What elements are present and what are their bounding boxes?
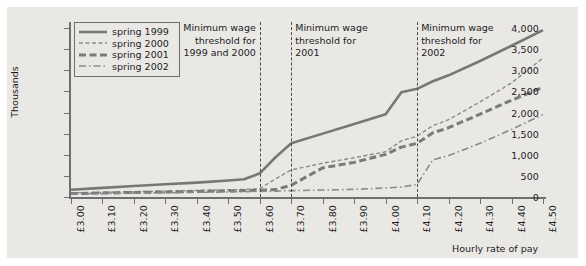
series-line bbox=[71, 87, 543, 193]
threshold-line bbox=[260, 22, 261, 197]
legend-item: spring 2000 bbox=[79, 38, 174, 50]
legend-line-swatch bbox=[79, 50, 107, 60]
x-tick bbox=[480, 198, 481, 204]
threshold-annotation: Minimum wage threshold for 2001 bbox=[295, 22, 391, 60]
legend-label: spring 2000 bbox=[112, 38, 169, 49]
y-tick-label: 2,500 bbox=[511, 86, 539, 97]
x-tick bbox=[228, 198, 229, 204]
x-tick-label: £3.30 bbox=[169, 205, 180, 233]
x-tick-label: £4.00 bbox=[390, 205, 401, 233]
x-tick-label: £3.40 bbox=[201, 205, 212, 233]
y-tick-label: 1,500 bbox=[511, 128, 539, 139]
legend-line-swatch bbox=[79, 27, 107, 37]
x-tick bbox=[354, 198, 355, 204]
x-tick bbox=[417, 198, 418, 204]
x-tick-label: £3.90 bbox=[358, 205, 369, 233]
series-line bbox=[71, 115, 543, 194]
x-tick-label: £4.40 bbox=[516, 205, 527, 233]
x-tick bbox=[512, 198, 513, 204]
x-tick-label: £3.60 bbox=[264, 205, 275, 233]
x-tick-label: £4.30 bbox=[484, 205, 495, 233]
y-tick bbox=[64, 155, 70, 156]
legend-label: spring 2002 bbox=[112, 61, 169, 72]
threshold-annotation: Minimum wage threshold for 2002 bbox=[421, 22, 517, 60]
x-tick bbox=[134, 198, 135, 204]
x-tick bbox=[197, 198, 198, 204]
legend-label: spring 1999 bbox=[112, 26, 169, 37]
y-tick bbox=[64, 70, 70, 71]
x-tick-label: £3.20 bbox=[138, 205, 149, 233]
x-tick-label: £3.80 bbox=[327, 205, 338, 233]
x-tick-label: £4.10 bbox=[421, 205, 432, 233]
legend-line-swatch bbox=[79, 38, 107, 48]
x-tick bbox=[291, 198, 292, 204]
legend-label: spring 2001 bbox=[112, 49, 169, 60]
x-tick bbox=[543, 198, 544, 204]
y-tick-label: 0 bbox=[533, 192, 539, 203]
y-tick bbox=[64, 176, 70, 177]
x-tick bbox=[165, 198, 166, 204]
legend-line-swatch bbox=[79, 61, 107, 71]
x-tick-label: £4.20 bbox=[453, 205, 464, 233]
y-tick-label: 500 bbox=[521, 170, 539, 181]
x-tick-label: £3.00 bbox=[75, 205, 86, 233]
threshold-line bbox=[417, 22, 418, 197]
legend-item: spring 1999 bbox=[79, 26, 174, 38]
x-tick-label: £3.70 bbox=[295, 205, 306, 233]
page-margin-bottom bbox=[0, 258, 586, 266]
x-tick bbox=[449, 198, 450, 204]
series-line bbox=[71, 58, 543, 193]
y-tick bbox=[64, 49, 70, 50]
legend-item: spring 2001 bbox=[79, 49, 174, 61]
y-tick bbox=[64, 197, 70, 198]
page-margin-top bbox=[0, 0, 586, 7]
threshold-line bbox=[291, 22, 292, 197]
x-tick-label: £3.10 bbox=[106, 205, 117, 233]
x-axis-line bbox=[69, 197, 546, 199]
page-margin-right bbox=[578, 0, 586, 266]
x-tick bbox=[71, 198, 72, 204]
x-tick-label: £4.50 bbox=[547, 205, 558, 233]
x-tick bbox=[260, 198, 261, 204]
x-axis-title: Hourly rate of pay bbox=[452, 243, 538, 254]
y-tick bbox=[64, 134, 70, 135]
y-tick-label: 3,000 bbox=[511, 65, 539, 76]
y-tick bbox=[64, 113, 70, 114]
y-tick-label: 2,000 bbox=[511, 107, 539, 118]
chart-figure: Thousands Hourly rate of pay 05001,0001,… bbox=[0, 0, 586, 266]
y-tick bbox=[64, 28, 70, 29]
x-tick-label: £3.50 bbox=[232, 205, 243, 233]
x-tick bbox=[102, 198, 103, 204]
x-tick bbox=[386, 198, 387, 204]
x-tick bbox=[323, 198, 324, 204]
y-tick bbox=[64, 91, 70, 92]
y-axis-title: Thousands bbox=[9, 66, 20, 117]
legend-item: spring 2002 bbox=[79, 61, 174, 73]
y-tick-label: 1,000 bbox=[511, 149, 539, 160]
chart-legend: spring 1999spring 2000spring 2001spring … bbox=[74, 22, 180, 77]
page-margin-left bbox=[0, 0, 7, 266]
